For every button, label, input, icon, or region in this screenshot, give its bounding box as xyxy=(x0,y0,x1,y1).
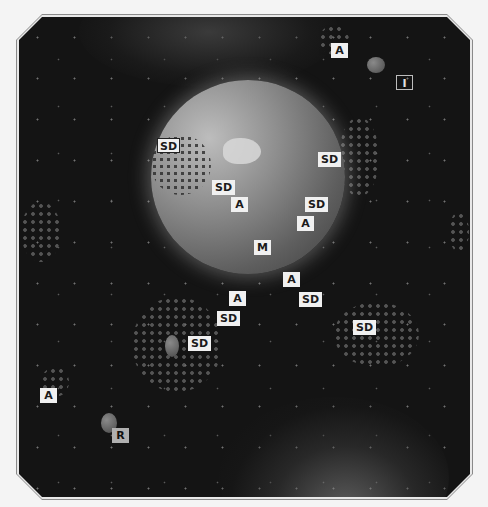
map-label-i[interactable]: I xyxy=(396,75,413,90)
asteroid-cluster-planet-right xyxy=(339,117,379,197)
map-label-a[interactable]: A xyxy=(297,216,314,231)
map-label-sd[interactable]: SD xyxy=(318,152,341,167)
asteroid-cluster-lower-right xyxy=(334,302,419,367)
map-label-r[interactable]: R xyxy=(112,428,129,443)
map-label-a[interactable]: A xyxy=(283,272,300,287)
planet[interactable] xyxy=(151,80,345,274)
map-label-sd[interactable]: SD xyxy=(217,311,240,326)
asteroid-cluster-far-right xyxy=(449,212,469,252)
asteroid-cluster-left xyxy=(21,202,61,262)
map-label-a[interactable]: A xyxy=(331,43,348,58)
map-label-a[interactable]: A xyxy=(229,291,246,306)
map-label-m[interactable]: M xyxy=(254,240,271,255)
large-asteroid xyxy=(165,335,179,357)
map-label-sd[interactable]: SD xyxy=(157,138,180,153)
ice-asteroid xyxy=(367,57,385,73)
map-label-sd[interactable]: SD xyxy=(299,292,322,307)
map-label-sd[interactable]: SD xyxy=(353,320,376,335)
map-label-sd[interactable]: SD xyxy=(188,336,211,351)
map-label-sd[interactable]: SD xyxy=(305,197,328,212)
map-label-sd[interactable]: SD xyxy=(212,180,235,195)
map-label-a[interactable]: A xyxy=(231,197,248,212)
planet-cloud xyxy=(223,138,261,164)
map-label-a[interactable]: A xyxy=(40,388,57,403)
